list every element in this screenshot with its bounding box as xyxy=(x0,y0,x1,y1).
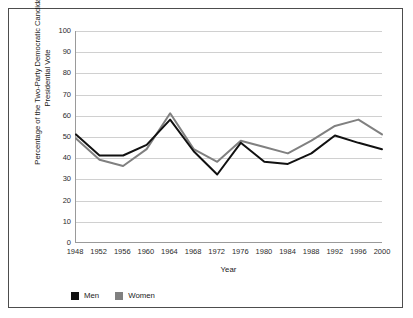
y-axis-tick-label: 40 xyxy=(45,154,71,162)
x-axis-tick-labels: 1948195219561960196419681972197619801984… xyxy=(75,247,382,259)
x-axis-tick-label: 2000 xyxy=(367,247,397,257)
x-axis-title: Year xyxy=(75,265,382,274)
y-axis-tick-label: 80 xyxy=(45,69,71,77)
y-axis-tick-label: 10 xyxy=(45,218,71,226)
series-lines xyxy=(76,31,382,242)
y-axis-tick-labels: 0102030405060708090100 xyxy=(41,31,71,243)
legend-label: Men xyxy=(84,291,99,300)
y-axis-tick-label: 60 xyxy=(45,112,71,120)
y-axis-tick-label: 90 xyxy=(45,48,71,56)
legend-item-women: Women xyxy=(115,291,155,300)
y-axis-tick-label: 50 xyxy=(45,133,71,141)
y-axis-tick-label: 70 xyxy=(45,91,71,99)
chart-legend: MenWomen xyxy=(71,291,155,300)
gridline xyxy=(76,243,382,244)
legend-item-men: Men xyxy=(71,291,99,300)
legend-swatch-icon xyxy=(71,292,79,300)
chart-figure: Percentage of the Two-Party Democratic C… xyxy=(8,8,403,308)
y-axis-tick-label: 20 xyxy=(45,197,71,205)
y-axis-tick-label: 100 xyxy=(45,27,71,35)
y-axis-tick-label: 30 xyxy=(45,175,71,183)
legend-label: Women xyxy=(128,291,155,300)
plot-area xyxy=(75,31,382,243)
y-axis-tick-label: 0 xyxy=(45,239,71,247)
legend-swatch-icon xyxy=(115,292,123,300)
